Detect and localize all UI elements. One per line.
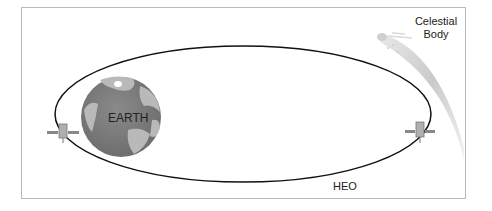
satellite-icon (47, 124, 79, 143)
orbit-label: HEO (333, 180, 357, 193)
celestial-label-line2: Body (406, 28, 466, 41)
celestial-body-label: Celestial Body (406, 15, 466, 41)
earth-label: EARTH (108, 112, 148, 125)
satellite-icon (405, 122, 435, 143)
celestial-label-line1: Celestial (406, 15, 466, 28)
